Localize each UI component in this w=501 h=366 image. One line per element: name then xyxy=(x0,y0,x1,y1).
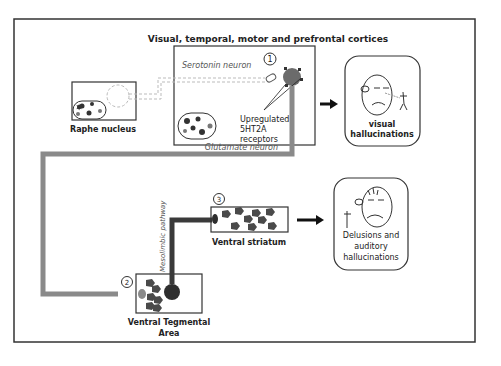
marker-1: 1 xyxy=(264,53,276,65)
marker-3: 3 xyxy=(214,194,225,205)
mesolimbic-label: Mesolimbic pathway xyxy=(159,200,167,272)
glutamate-label: Glutamate neuron xyxy=(205,143,278,152)
raphe-label: Raphe nucleus xyxy=(70,125,136,134)
dopamine-terminal xyxy=(212,214,218,224)
svg-text:5HT2A: 5HT2A xyxy=(240,125,267,134)
svg-text:hallucinations: hallucinations xyxy=(350,130,414,139)
svg-text:Area: Area xyxy=(159,329,180,338)
striatum-neurons xyxy=(222,207,277,231)
arrow-to-visual xyxy=(320,99,338,109)
cortical-neuron xyxy=(264,67,303,110)
glutamate-terminal xyxy=(138,289,146,299)
svg-text:3: 3 xyxy=(217,196,221,204)
svg-text:2: 2 xyxy=(125,279,129,287)
svg-text:Delusions and: Delusions and xyxy=(343,231,400,240)
vta-neurons xyxy=(146,279,163,312)
delusions-label: Delusions and auditory hallucinations xyxy=(343,231,400,262)
striatum-label: Ventral striatum xyxy=(212,238,286,247)
arrow-to-delusions xyxy=(297,215,324,225)
auditory-hallucination-face-icon xyxy=(344,187,392,228)
svg-text:hallucinations: hallucinations xyxy=(343,253,399,262)
diagram-title: Visual, temporal, motor and prefrontal c… xyxy=(148,34,388,44)
receptor-label: Upregulated 5HT2A receptors xyxy=(240,115,289,144)
raphe-neuron-cluster xyxy=(73,101,106,119)
pill-icon xyxy=(265,73,277,83)
svg-text:Upregulated: Upregulated xyxy=(240,115,289,124)
visual-hallucinations-label: visual hallucinations xyxy=(350,120,414,139)
svg-text:1: 1 xyxy=(267,55,272,64)
marker-2: 2 xyxy=(122,277,133,288)
serotonin-label: Serotonin neuron xyxy=(182,61,251,70)
hallucinating-face-icon xyxy=(361,75,407,115)
vta-label: Ventral Tegmental Area xyxy=(128,318,211,338)
cortex-neuron-cluster xyxy=(178,113,216,139)
dopamine-neuron xyxy=(164,284,180,300)
svg-text:visual: visual xyxy=(369,120,396,129)
svg-text:Ventral Tegmental: Ventral Tegmental xyxy=(128,318,211,327)
diagram-canvas: Visual, temporal, motor and prefrontal c… xyxy=(0,0,501,366)
svg-text:auditory: auditory xyxy=(354,242,388,251)
